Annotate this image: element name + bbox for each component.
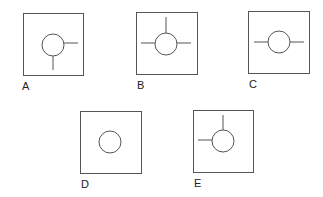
figure-option-e: [194, 111, 254, 173]
square-frame: [81, 112, 142, 174]
figure-options-diagram: [0, 0, 323, 197]
figure-option-b: [137, 13, 198, 75]
circle-shape: [42, 34, 64, 56]
option-label-c: C: [249, 78, 257, 90]
figure-option-a: [24, 14, 84, 76]
option-label-a: A: [22, 80, 29, 92]
figure-option-c: [249, 12, 310, 74]
option-label-e: E: [194, 177, 201, 189]
circle-shape: [99, 131, 121, 153]
option-label-b: B: [137, 79, 144, 91]
circle-shape: [155, 33, 177, 55]
circle-shape: [268, 31, 290, 53]
figure-option-d: [81, 112, 142, 174]
option-label-d: D: [81, 178, 89, 190]
circle-shape: [212, 130, 234, 152]
